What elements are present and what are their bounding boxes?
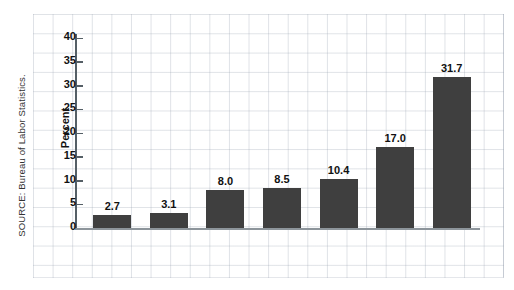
source-note: SOURCE: Bureau of Labor Statistics. (16, 61, 27, 251)
bar (206, 190, 244, 228)
plot-area: Percent 0510152025303540 2.7CollegeGradu… (84, 38, 480, 228)
y-tick-label: 40 (46, 30, 76, 42)
bar (150, 213, 188, 228)
bar-value-label: 8.5 (254, 173, 311, 185)
x-axis-baseline (75, 228, 480, 230)
y-tick-label: 20 (46, 125, 76, 137)
y-tick-label: 15 (46, 149, 76, 161)
bar-value-label: 31.7 (423, 62, 480, 74)
y-tick-mark (76, 204, 83, 206)
y-tick-mark (76, 109, 83, 111)
y-tick-mark (76, 180, 83, 182)
bar-value-label: 17.0 (367, 132, 424, 144)
bar (263, 188, 301, 228)
y-tick-label: 10 (46, 173, 76, 185)
y-tick-label: 0 (46, 220, 76, 232)
bar (433, 77, 471, 228)
y-tick-label: 35 (46, 54, 76, 66)
bar (376, 147, 414, 228)
bar-value-label: 10.4 (310, 164, 367, 176)
chart-figure: SOURCE: Bureau of Labor Statistics. Perc… (0, 0, 514, 290)
bar-value-label: 8.0 (197, 175, 254, 187)
y-tick-mark (76, 61, 83, 63)
y-tick-label: 30 (46, 78, 76, 90)
y-tick-label: 25 (46, 101, 76, 113)
bar (93, 215, 131, 228)
y-tick-mark (76, 156, 83, 158)
bar (320, 179, 358, 228)
y-tick-mark (76, 85, 83, 87)
y-tick-mark (76, 38, 83, 40)
bar-value-label: 2.7 (84, 200, 141, 212)
bar-value-label: 3.1 (141, 198, 198, 210)
y-tick-mark (76, 133, 83, 135)
y-tick-label: 5 (46, 196, 76, 208)
